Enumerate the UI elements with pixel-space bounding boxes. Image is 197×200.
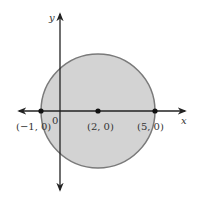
x-axis-label: x <box>181 115 187 126</box>
y-axis-label: y <box>48 12 55 23</box>
point-center-2-0 <box>95 108 100 113</box>
origin-label: 0 <box>52 115 58 126</box>
point-label-neg1-0: (−1, 0) <box>16 121 51 132</box>
point-label-2-0: (2, 0) <box>87 121 114 132</box>
coordinate-plane: y x 0 (−1, 0) (2, 0) (5, 0) <box>0 0 197 200</box>
point-label-5-0: (5, 0) <box>137 121 164 132</box>
point-neg1-0 <box>38 108 43 113</box>
point-5-0 <box>152 108 157 113</box>
